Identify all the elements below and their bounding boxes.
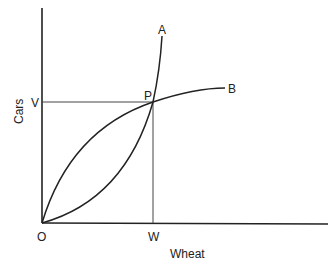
curve-a-label: A: [158, 23, 166, 37]
diagram-canvas: A B P V W O Wheat Cars: [0, 0, 334, 269]
x-tick-w-label: W: [148, 230, 160, 244]
x-axis-label: Wheat: [170, 247, 205, 261]
point-p-label: P: [144, 89, 152, 103]
curve-b: [42, 88, 225, 223]
curve-b-label: B: [228, 82, 236, 96]
y-axis-label: Cars: [12, 99, 26, 124]
diagram: A B P V W O Wheat Cars: [0, 0, 334, 269]
y-tick-v-label: V: [31, 96, 39, 110]
origin-label: O: [37, 230, 46, 244]
x-axis: [42, 223, 328, 224]
